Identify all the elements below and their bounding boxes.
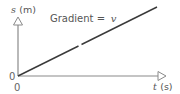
gradient-annotation-var: v bbox=[111, 13, 117, 24]
x-axis-label: t (s) bbox=[153, 81, 173, 92]
y-axis-label: s (m) bbox=[11, 4, 36, 15]
x-axis-arrowhead-icon bbox=[158, 72, 166, 81]
distance-time-graph: s (m) Gradient = v 0 0 t (s) bbox=[0, 0, 180, 94]
displacement-line-lower bbox=[18, 46, 79, 76]
gradient-annotation: Gradient = v bbox=[50, 13, 117, 24]
gradient-annotation-prefix: Gradient = bbox=[50, 13, 108, 24]
x-axis-var: t bbox=[153, 81, 157, 92]
y-axis-var: s bbox=[11, 4, 16, 15]
y-axis-arrowhead-icon bbox=[14, 17, 23, 25]
x-axis-unit: (s) bbox=[160, 81, 172, 92]
origin-y-label: 0 bbox=[9, 71, 15, 82]
y-axis-unit: (m) bbox=[19, 4, 36, 15]
origin-x-label: 0 bbox=[14, 82, 20, 93]
